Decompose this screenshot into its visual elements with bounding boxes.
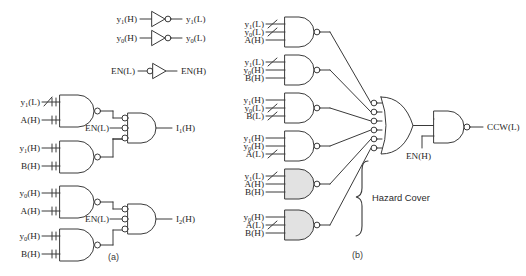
label-a4-in1: y0(H): [19, 232, 40, 241]
label-b1-in3: A(H): [245, 36, 264, 45]
inverter-y0: [140, 31, 182, 46]
label-b6-in3: B(H): [245, 229, 264, 238]
label-inv3-input: EN(L): [111, 67, 135, 76]
inverter-y1: [140, 12, 182, 27]
figure-canvas: y1(H) y1(L) y0(H) y0(L) EN(L) EN(H) y1(L…: [0, 0, 526, 276]
label-b-output: CCW(L): [487, 123, 520, 132]
label-a4-in2: B(H): [21, 250, 40, 259]
label-a3-in2: A(H): [21, 207, 40, 216]
gate-b-out-nand: [422, 111, 483, 148]
gate-a-nand-3: [42, 186, 122, 218]
panel-a-caption: (a): [108, 252, 119, 262]
label-a2-in2: B(H): [21, 162, 40, 171]
label-a-out2: I2(H): [176, 215, 195, 224]
label-inv2-input: y0(H): [116, 34, 137, 43]
label-a3-in1: y0(H): [19, 189, 40, 198]
label-a-out2-enable: EN(L): [85, 215, 109, 224]
label-inv2-output: y0(L): [186, 34, 206, 43]
label-inv1-output: y1(L): [186, 15, 206, 24]
label-b2-in3: B(H): [245, 74, 264, 83]
gate-b-nand-6: [266, 148, 371, 240]
panel-b-caption: (b): [352, 250, 363, 260]
label-inv3-output: EN(H): [181, 67, 206, 76]
hazard-cover-label: Hazard Cover: [372, 192, 430, 203]
label-b4-in3: A(L): [246, 150, 264, 159]
label-b3-in3: B(L): [246, 112, 264, 121]
gate-a-nand-2: [42, 139, 122, 173]
gate-b-nand-1: [266, 17, 371, 103]
gate-b-nand-2: [266, 55, 371, 112]
label-a-out1: I1(H): [176, 124, 195, 133]
label-inv1-input: y1(H): [116, 15, 137, 24]
label-a1-in1: y1(L): [20, 98, 40, 107]
label-a2-in1: y1(H): [19, 144, 40, 153]
label-a1-in2: A(H): [21, 116, 40, 125]
label-b-enable: EN(H): [406, 152, 431, 161]
gate-a-nand-1: [42, 95, 122, 127]
gate-b-or: [371, 97, 434, 154]
inverter-en: [138, 64, 177, 79]
gate-b-nand-3: [266, 93, 371, 123]
label-b5-in3: B(H): [245, 188, 264, 197]
label-a-out1-enable: EN(L): [85, 124, 109, 133]
